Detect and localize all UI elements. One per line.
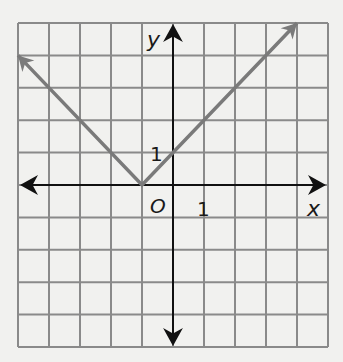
x-tick-label: 1 [197, 197, 210, 221]
origin-label: O [150, 194, 166, 218]
coordinate-graph: y x O 1 1 [0, 0, 343, 362]
x-axis-label: x [306, 196, 321, 221]
axes [20, 24, 326, 346]
y-axis-label: y [146, 27, 161, 52]
y-tick-label: 1 [150, 142, 163, 166]
